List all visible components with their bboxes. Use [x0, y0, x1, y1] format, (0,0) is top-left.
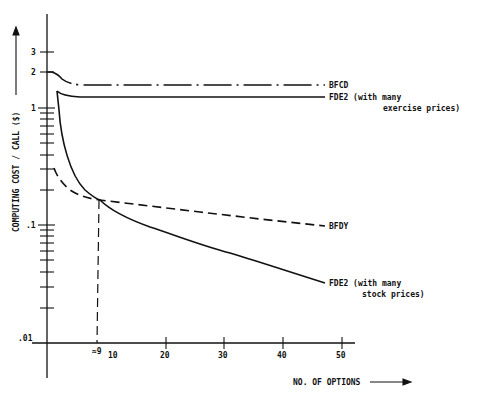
y-tick-3: 3 — [31, 48, 36, 57]
series-bfcd — [47, 72, 325, 85]
x-tick-50: 50 — [336, 351, 346, 360]
y-tick-0.1: .1 — [26, 221, 36, 230]
chart: 3 2 1 .1 .01 10 20 30 40 50 ≈9 COMPUTING… — [0, 0, 483, 396]
label-bfcd: BFCD — [329, 81, 348, 90]
series-fde2-stock — [57, 91, 325, 283]
crossover-drop-line — [97, 200, 99, 343]
y-axis-arrow — [13, 27, 19, 95]
x-tick-20: 20 — [160, 351, 170, 360]
x-tick-40: 40 — [277, 351, 287, 360]
series — [47, 72, 325, 343]
label-bfdy: BFDY — [329, 222, 348, 231]
label-fde2-stock-1: FDE2 (with many — [329, 278, 401, 288]
axes — [32, 14, 355, 378]
label-fde2-stock-2: stock prices) — [362, 289, 425, 299]
y-axis-label: COMPUTING COST / CALL ($) — [12, 112, 21, 232]
x-axis-arrow — [370, 379, 411, 385]
crossover-label: ≈9 — [92, 347, 102, 356]
x-tick-30: 30 — [218, 351, 228, 360]
y-tick-1: 1 — [31, 104, 36, 113]
y-tick-0.01: .01 — [18, 334, 33, 343]
label-fde2-exercise-2: exercise prices) — [383, 103, 460, 113]
label-fde2-exercise-1: FDE2 (with many — [329, 92, 401, 102]
series-fde2-exercise — [57, 91, 325, 97]
x-tick-10: 10 — [108, 351, 118, 360]
y-tick-2: 2 — [31, 68, 36, 77]
x-axis-label: NO. OF OPTIONS — [293, 378, 361, 387]
